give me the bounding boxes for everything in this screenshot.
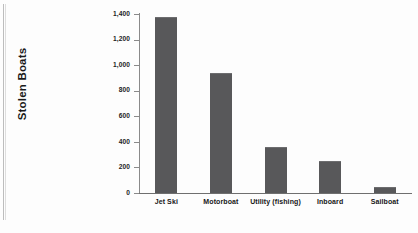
bar xyxy=(155,17,177,193)
y-axis-tick xyxy=(134,91,139,92)
y-axis-tick-label: 1,400 xyxy=(70,11,130,18)
y-axis-tick-label: 400 xyxy=(70,139,130,146)
y-axis-tick xyxy=(134,193,139,194)
y-axis-tick-label: 200 xyxy=(70,164,130,171)
bar-top-edge xyxy=(265,147,287,148)
x-axis-category-label: Inboard xyxy=(303,198,358,205)
y-axis-tick-label: 800 xyxy=(70,87,130,94)
y-axis-tick xyxy=(134,167,139,168)
y-axis-line xyxy=(139,13,140,194)
x-axis-category-label: Sailboat xyxy=(357,198,412,205)
x-axis-category-label: Motorboat xyxy=(194,198,249,205)
bar-top-edge xyxy=(374,187,396,188)
y-axis-tick-label: 600 xyxy=(70,113,130,120)
x-axis-category-label: Utility (fishing) xyxy=(248,198,303,205)
y-axis-tick-label: 0 xyxy=(70,190,130,197)
y-axis-tick xyxy=(134,116,139,117)
y-axis-tick xyxy=(134,142,139,143)
bar-chart: Stolen Boats 02004006008001,0001,2001,40… xyxy=(0,0,418,233)
x-axis-category-label: Jet Ski xyxy=(139,198,194,205)
bar xyxy=(319,161,341,193)
x-axis-line xyxy=(139,193,412,194)
bar xyxy=(265,147,287,193)
bar xyxy=(210,73,232,193)
y-axis-tick-label: 1,200 xyxy=(70,36,130,43)
y-axis-tick xyxy=(134,40,139,41)
y-axis-tick-label: 1,000 xyxy=(70,62,130,69)
y-axis-tick xyxy=(134,65,139,66)
y-axis-title: Stolen Boats xyxy=(16,24,28,144)
bar-top-edge xyxy=(210,73,232,74)
scanned-page: Stolen Boats 02004006008001,0001,2001,40… xyxy=(0,0,418,233)
bar-top-edge xyxy=(319,161,341,162)
y-axis-tick xyxy=(134,14,139,15)
bar-top-edge xyxy=(155,17,177,18)
